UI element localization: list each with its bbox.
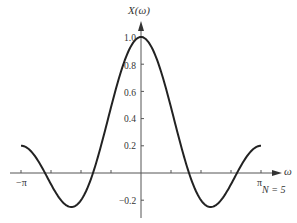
y-tick-label: 0.8 — [124, 61, 136, 71]
y-tick-label: 0.4 — [124, 114, 136, 124]
chart: X(ω) ω N = 5 −π π 1.0 0.8 0.6 0.4 0.2 −0… — [0, 0, 297, 223]
x-tick-label-pi: π — [257, 177, 262, 188]
y-tick-label: 0.2 — [124, 141, 136, 151]
y-tick-label: 1.0 — [124, 33, 136, 43]
n-annotation: N = 5 — [261, 184, 285, 195]
x-axis-arrow-icon — [272, 170, 282, 176]
y-axis-label: X(ω) — [127, 4, 150, 17]
x-axis-label: ω — [284, 165, 292, 177]
x-tick-label-neg-pi: −π — [16, 177, 27, 188]
y-tick-label: −0.2 — [119, 196, 136, 206]
y-tick-label: 0.6 — [124, 88, 136, 98]
y-axis-arrow-icon — [138, 21, 144, 31]
